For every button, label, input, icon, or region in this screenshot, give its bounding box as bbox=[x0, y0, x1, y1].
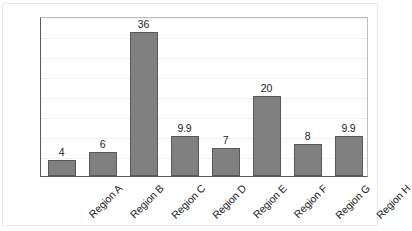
bar-value-label: 7 bbox=[223, 134, 229, 146]
bar-group[interactable]: 9.9 bbox=[331, 16, 367, 176]
bar-value-label: 20 bbox=[261, 82, 272, 94]
bar[interactable] bbox=[294, 144, 322, 176]
plot-area: 46369.972089.9 bbox=[40, 17, 368, 177]
bar-value-label: 9.9 bbox=[178, 122, 192, 134]
bar-value-label: 9.9 bbox=[342, 122, 356, 134]
bar-value-label: 4 bbox=[59, 146, 65, 158]
bar-group[interactable]: 6 bbox=[85, 16, 121, 176]
bar-value-label: 8 bbox=[305, 130, 311, 142]
bar-value-label: 36 bbox=[138, 18, 149, 30]
x-axis-category-label[interactable]: Region B bbox=[127, 182, 165, 220]
bar-group[interactable]: 4 bbox=[44, 16, 80, 176]
bars-container: 46369.972089.9 bbox=[41, 18, 367, 176]
bar[interactable] bbox=[48, 160, 76, 176]
bar-group[interactable]: 7 bbox=[208, 16, 244, 176]
bar[interactable] bbox=[335, 136, 363, 176]
x-axis-category-label[interactable]: Region H bbox=[373, 182, 412, 221]
bar[interactable] bbox=[130, 32, 158, 176]
bar[interactable] bbox=[253, 96, 281, 176]
bar[interactable] bbox=[171, 136, 199, 176]
x-axis-category-label[interactable]: Region E bbox=[250, 182, 288, 220]
bar-group[interactable]: 36 bbox=[126, 16, 162, 176]
x-axis-category-label[interactable]: Region A bbox=[86, 182, 124, 220]
y-axis: 0510152025303540 bbox=[0, 0, 40, 231]
bar-group[interactable]: 20 bbox=[249, 16, 285, 176]
x-axis-category-label[interactable]: Region D bbox=[209, 182, 248, 221]
bar-group[interactable]: 8 bbox=[290, 16, 326, 176]
x-axis-category-label[interactable]: Region G bbox=[332, 182, 371, 221]
bar-group[interactable]: 9.9 bbox=[167, 16, 203, 176]
bar[interactable] bbox=[89, 152, 117, 176]
bar-value-label: 6 bbox=[100, 138, 106, 150]
x-axis-category-label[interactable]: Region C bbox=[168, 182, 207, 221]
x-axis-category-label[interactable]: Region F bbox=[291, 182, 329, 220]
bar[interactable] bbox=[212, 148, 240, 176]
